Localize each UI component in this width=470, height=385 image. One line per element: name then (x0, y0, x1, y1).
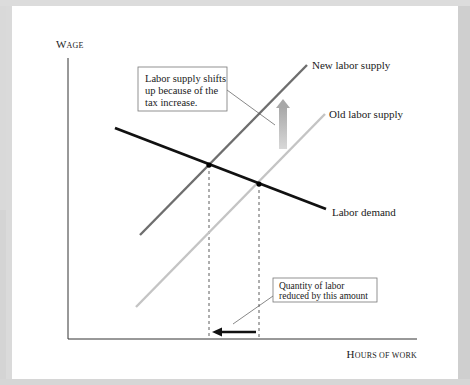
quantity-note-callout: Quantity of labor reduced by this amount (233, 278, 377, 324)
old-equilibrium-dot (256, 181, 261, 186)
shift-note-line-3: tax increase. (145, 97, 197, 108)
old-labor-supply-label: Old labor supply (329, 108, 403, 120)
y-axis-label: WAGE (56, 38, 84, 50)
labor-market-chart: WAGE HOURS OF WORK Labor supply shifts u… (0, 0, 470, 385)
new-equilibrium-dot (206, 162, 211, 167)
new-labor-supply-label: New labor supply (312, 59, 391, 71)
shift-note-line-2: up because of the (145, 85, 219, 96)
quantity-note-line-2: reduced by this amount (279, 291, 368, 301)
quantity-note-line-1: Quantity of labor (279, 281, 345, 291)
x-axis-label: HOURS OF WORK (347, 348, 417, 360)
shift-up-arrow-icon (276, 99, 290, 149)
shift-note-line-1: Labor supply shifts (145, 73, 226, 84)
labor-demand-label: Labor demand (332, 206, 396, 218)
quantity-reduction-arrow-icon (212, 328, 256, 337)
shift-note-callout: Labor supply shifts up because of the ta… (138, 67, 275, 125)
labor-demand-line (115, 128, 326, 209)
